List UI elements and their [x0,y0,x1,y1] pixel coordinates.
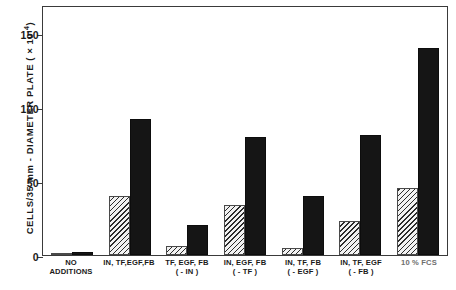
x-label-line-1: IN, TF, FB [285,258,321,267]
bar-hatched [224,205,245,255]
x-label-line-2: ( - IN ) [158,267,216,276]
x-axis-category-label: IN, TF, FB( - EGF ) [274,258,332,276]
x-label-line-1: IN, TF, EGF [340,258,382,267]
x-axis-category-label: IN, EGF, FB( - TF ) [216,258,274,276]
x-axis-category-label: 10 % FCS [390,258,448,276]
bar-group [216,5,274,255]
x-axis-labels: NOADDITIONSIN, TF,EGF,FBTF, EGF, FB( - I… [42,258,448,276]
x-label-line-1: IN, TF,EGF,FB [103,258,154,267]
bar-group [332,5,390,255]
bar-solid [245,137,266,255]
bar-solid [72,252,93,255]
x-axis-category-label: IN, TF,EGF,FB [100,258,158,276]
bar-group [158,5,216,255]
bar-hatched [51,253,72,255]
y-tick-label-150: 150 [21,29,43,41]
bar-solid [418,48,439,255]
bar-solid [360,135,381,255]
x-label-line-1: NO [65,258,77,267]
bar-hatched [109,196,130,255]
x-label-line-1: IN, EGF, FB [224,258,267,267]
x-axis-category-label: IN, TF, EGF( - FB ) [332,258,390,276]
x-axis-category-label: NOADDITIONS [42,258,100,276]
figure-caption [26,283,446,289]
x-label-line-1: TF, EGF, FB [165,258,208,267]
bar-hatched [397,188,418,255]
bar-group [389,5,447,255]
y-tick-label-100: 100 [21,103,43,115]
bar-hatched [166,246,187,255]
bar-hatched [282,248,303,255]
bars-container [43,5,447,255]
y-tick-label-50: 50 [27,177,43,189]
bar-group [43,5,101,255]
bar-hatched [339,221,360,255]
figure: CELLS/35 mm - DIAMETER PLATE ( × 10-4) 0… [0,0,456,290]
bar-solid [303,196,324,255]
bar-group [101,5,159,255]
x-label-line-1: 10 % FCS [401,258,437,267]
y-axis-label: CELLS/35 mm - DIAMETER PLATE ( × 10-4) [23,13,35,243]
x-label-line-2: ( - TF ) [216,267,274,276]
bar-solid [187,225,208,255]
y-axis-label-close: ) [24,22,35,26]
plot-area: 050100150 [42,6,448,256]
bar-group [274,5,332,255]
y-axis-label-main: CELLS/35 mm - DIAMETER PLATE ( × 10 [24,33,35,234]
bar-solid [130,119,151,255]
x-label-line-2: ADDITIONS [42,267,100,276]
x-axis-category-label: TF, EGF, FB( - IN ) [158,258,216,276]
x-label-line-2: ( - FB ) [332,267,390,276]
x-label-line-2: ( - EGF ) [274,267,332,276]
